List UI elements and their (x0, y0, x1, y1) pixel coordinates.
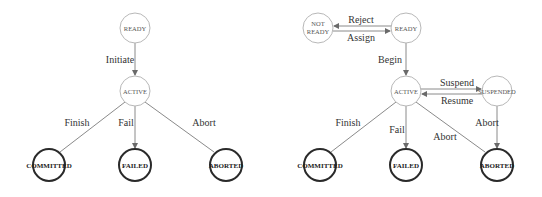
state-suspended: SUSPENDED (478, 76, 516, 106)
label-abort: Abort (192, 117, 216, 128)
svg-text:READY: READY (124, 25, 147, 32)
label-finish: Finish (64, 117, 89, 128)
label-begin: Begin (378, 54, 402, 65)
state-failed: FAILED (390, 149, 422, 181)
svg-text:ABORTED: ABORTED (480, 162, 514, 170)
right-diagram: Reject Assign Begin Suspend Resume Finis… (297, 13, 516, 181)
label-fail: Fail (118, 117, 134, 128)
label-assign: Assign (347, 32, 375, 43)
state-failed: FAILED (119, 149, 151, 181)
state-ready: READY (391, 13, 421, 43)
state-aborted: ABORTED (480, 149, 514, 181)
label-initiate: Initiate (106, 54, 135, 65)
svg-text:READY: READY (395, 25, 418, 32)
state-aborted: ABORTED (209, 149, 243, 181)
state-ready: READY (120, 13, 150, 43)
state-committed: COMMITTED (297, 149, 343, 181)
label-abort-active: Abort (433, 131, 457, 142)
label-finish: Finish (335, 117, 360, 128)
state-active: ACTIVE (391, 76, 421, 106)
svg-text:SUSPENDED: SUSPENDED (478, 88, 516, 95)
svg-text:ACTIVE: ACTIVE (394, 88, 418, 95)
svg-text:READY: READY (307, 28, 330, 35)
label-suspend: Suspend (440, 77, 474, 88)
label-reject: Reject (348, 14, 374, 25)
svg-text:FAILED: FAILED (122, 162, 148, 170)
state-active: ACTIVE (120, 76, 150, 106)
state-not-ready: NOT READY (303, 13, 333, 43)
svg-text:COMMITTED: COMMITTED (26, 162, 72, 170)
state-diagrams: Initiate Finish Fail Abort READY ACTIVE … (0, 0, 542, 197)
state-committed: COMMITTED (26, 149, 72, 181)
label-fail: Fail (389, 124, 405, 135)
svg-text:NOT: NOT (311, 20, 324, 27)
svg-text:FAILED: FAILED (393, 162, 419, 170)
label-resume: Resume (441, 95, 474, 106)
svg-text:ACTIVE: ACTIVE (123, 88, 147, 95)
svg-text:COMMITTED: COMMITTED (297, 162, 343, 170)
svg-text:ABORTED: ABORTED (209, 162, 243, 170)
left-diagram: Initiate Finish Fail Abort READY ACTIVE … (26, 13, 243, 181)
label-abort-suspended: Abort (475, 117, 499, 128)
